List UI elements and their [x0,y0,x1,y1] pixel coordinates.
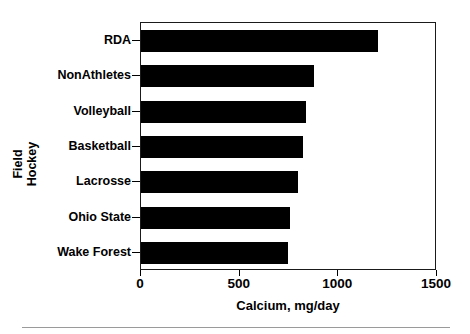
y-axis-label-rda: RDA [0,33,131,47]
y-axis-title-line-1: Field [11,141,25,187]
bar-ohio-state [141,207,290,229]
y-axis-title: Field Hockey [11,141,39,187]
y-axis-label-wake-forest: Wake Forest [0,245,131,259]
y-axis-tick [132,181,140,182]
x-axis-title: Calcium, mg/day [140,298,436,313]
y-axis-tick [132,252,140,253]
bar-volleyball [141,101,306,123]
y-axis-title-line-2: Hockey [25,141,39,187]
footer-divider [22,327,450,328]
x-axis-tick-label-0: 0 [110,276,170,291]
bar-wake-forest [141,242,288,264]
x-axis-tick-label-1000: 1000 [307,276,367,291]
y-axis-label-nonathletes: NonAthletes [0,68,131,82]
plot-area [140,22,436,270]
y-axis-tick [132,146,140,147]
bar-chart-figure: RDANonAthletesVolleyballBasketballLacros… [0,0,470,334]
bar-nonathletes [141,65,314,87]
y-axis-tick [132,111,140,112]
y-axis-tick [132,217,140,218]
bar-rda [141,30,378,52]
x-axis-tick-label-1500: 1500 [406,276,466,291]
y-axis-tick [132,75,140,76]
bar-basketball [141,136,303,158]
x-axis-tick-label-500: 500 [209,276,269,291]
y-axis-label-ohio-state: Ohio State [0,210,131,224]
y-axis-label-volleyball: Volleyball [0,104,131,118]
bar-lacrosse [141,171,298,193]
y-axis-tick [132,40,140,41]
